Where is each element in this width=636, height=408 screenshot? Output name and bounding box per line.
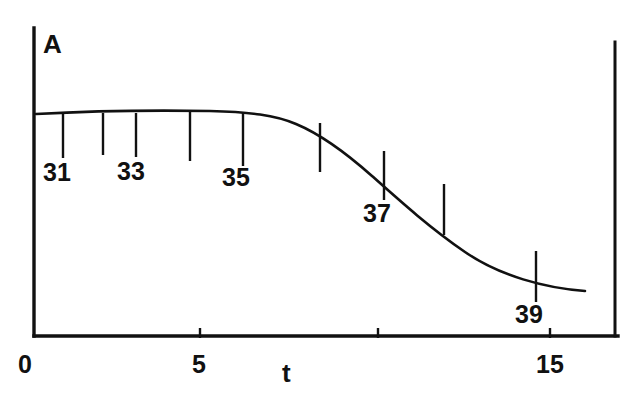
curve-marker-label-37: 37 — [363, 201, 391, 226]
curve-marker-label-35: 35 — [222, 165, 250, 190]
x-tick-label-5: 5 — [192, 352, 206, 377]
chart-plot-area — [0, 0, 636, 408]
curve-marker-label-31: 31 — [43, 160, 71, 185]
chart-figure: A t 0 5 15 31 33 35 37 39 — [0, 0, 636, 408]
origin-tick-label: 0 — [18, 352, 32, 377]
x-axis-label: t — [282, 360, 291, 386]
curve-marker-label-39: 39 — [515, 302, 543, 327]
decay-curve — [36, 111, 585, 291]
curve-marker-label-33: 33 — [117, 159, 145, 184]
curve-dropline-group — [63, 112, 536, 302]
x-tick-label-15: 15 — [536, 352, 564, 377]
y-axis-label: A — [43, 31, 62, 57]
